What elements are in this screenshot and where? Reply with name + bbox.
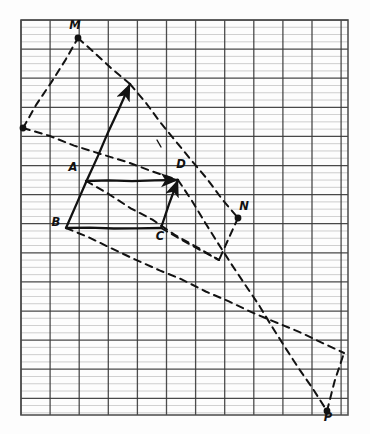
segment-B-to-F	[66, 84, 130, 228]
geometry-figure: MABCDNP	[0, 0, 370, 434]
dashed-A-to-G	[86, 181, 219, 260]
diagram-canvas: MABCDNP	[0, 0, 370, 434]
point-label-c: C	[156, 229, 165, 243]
point-label-d: D	[176, 157, 186, 171]
point-labels: MABCDNP	[52, 18, 333, 424]
point-dot-e	[20, 125, 27, 132]
dashed-construction-lines	[23, 38, 344, 411]
solid-vector-lines	[66, 84, 178, 229]
point-label-a: A	[68, 160, 78, 174]
point-dot-n	[235, 215, 242, 222]
point-label-p: P	[324, 410, 333, 424]
point-dot-m	[75, 35, 82, 42]
dashed-C-to-long	[161, 228, 219, 260]
point-label-m: M	[69, 18, 81, 32]
segment-B-to-C	[66, 228, 161, 229]
segment-A-to-D	[86, 180, 178, 181]
point-label-b: B	[52, 215, 61, 229]
point-label-n: N	[239, 199, 249, 213]
vertex-dots	[20, 35, 331, 415]
dashed-M-to-F	[78, 38, 130, 84]
